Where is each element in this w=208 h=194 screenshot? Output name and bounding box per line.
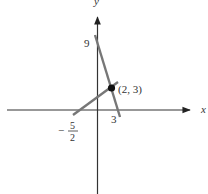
line-1 — [95, 35, 120, 117]
x-axis-label: x — [200, 103, 206, 115]
fraction-denominator: 2 — [70, 132, 75, 143]
fraction-numerator: 5 — [70, 120, 75, 131]
fraction-sign: − — [58, 124, 64, 136]
x-intercept-label-3: 3 — [111, 113, 117, 125]
y-axis-label: y — [93, 0, 99, 7]
y-intercept-label: 9 — [84, 37, 90, 49]
intersection-point — [108, 84, 115, 91]
graph-canvas: x y 9 3 (2, 3) − 5 2 — [0, 0, 208, 194]
intersection-label: (2, 3) — [118, 83, 142, 96]
